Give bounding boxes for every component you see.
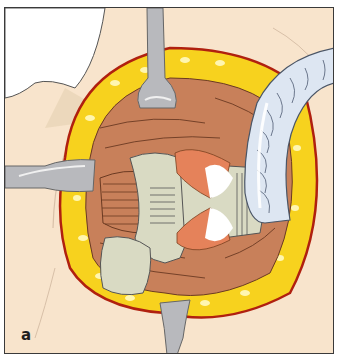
surgical-illustration bbox=[5, 8, 334, 354]
figure-frame: a bbox=[4, 7, 334, 354]
panel-label: a bbox=[21, 326, 31, 344]
